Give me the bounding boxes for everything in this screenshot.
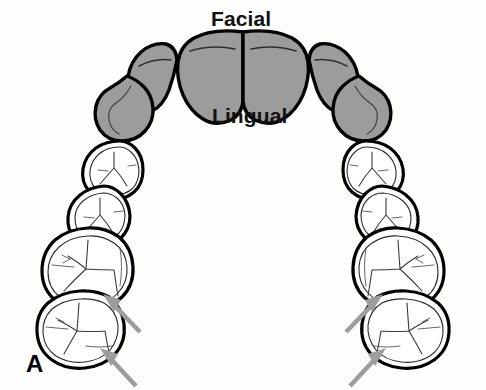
dental-arch-diagram [0,0,486,390]
dental-arch-figure: Facial Lingual A [0,0,486,390]
facial-label: Facial [211,8,271,29]
panel-letter-label: A [26,352,43,376]
lingual-label: Lingual [212,105,287,126]
right-second-molar-arrow [350,348,386,386]
left-second-molar-arrow [100,348,136,386]
tooth-left-canine [95,76,153,141]
tooth-right-canine [333,76,391,141]
